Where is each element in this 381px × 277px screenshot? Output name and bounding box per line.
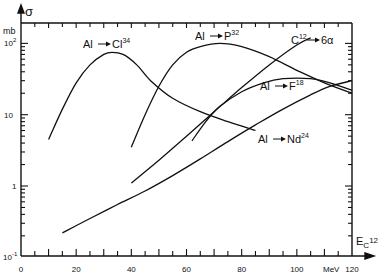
y-axis-symbol: σ <box>25 4 33 19</box>
svg-text:F18: F18 <box>289 79 304 92</box>
reaction-arrow-icon <box>283 84 288 89</box>
x-tick-label: 20 <box>72 265 81 274</box>
y-tick-label: 10-1 <box>3 251 18 262</box>
y-tick-label: 1 <box>12 182 17 191</box>
x-tick-label: 120 <box>345 265 359 274</box>
x-tick-label: 80 <box>237 265 246 274</box>
svg-text:Al: Al <box>258 133 268 145</box>
svg-text:C12: C12 <box>291 33 307 46</box>
reaction-arrow-icon <box>106 42 111 47</box>
svg-text:6α: 6α <box>321 34 334 46</box>
x-tick-label: 0 <box>19 265 24 274</box>
chart-labels: σmb10210110-1020406080100120MeVEC12AlCl3… <box>3 4 379 274</box>
reaction-arrow-icon <box>315 38 320 43</box>
y-axis-arrow-icon <box>18 5 24 13</box>
curve-al-nd24 <box>62 81 352 233</box>
cross-section-chart: σmb10210110-1020406080100120MeVEC12AlCl3… <box>0 0 381 277</box>
curve-c12-6alpha <box>131 38 310 183</box>
x-tick-label: 40 <box>127 265 136 274</box>
x-axis-symbol: EC12 <box>356 235 379 250</box>
curve-al-p32 <box>131 43 352 147</box>
reaction-arrow-icon <box>218 34 223 39</box>
svg-text:Cl34: Cl34 <box>112 37 130 50</box>
y-tick-label: 10 <box>4 111 13 120</box>
axis-ticks <box>21 23 352 256</box>
curve-al-cl34 <box>49 52 256 139</box>
x-axis-arrow-icon <box>365 253 374 259</box>
svg-text:Al: Al <box>260 80 270 92</box>
x-axis-unit: MeV <box>323 265 340 274</box>
label-al-f18: AlF18 <box>260 79 304 92</box>
svg-text:Al: Al <box>83 38 93 50</box>
label-al-cl34: AlCl34 <box>83 37 130 50</box>
svg-text:Nd24: Nd24 <box>287 132 309 145</box>
x-tick-label: 100 <box>290 265 304 274</box>
y-tick-label: 102 <box>4 37 17 48</box>
x-tick-label: 60 <box>182 265 191 274</box>
svg-text:P32: P32 <box>224 29 239 42</box>
label-al-nd24: AlNd24 <box>258 132 309 145</box>
reaction-arrow-icon <box>281 137 286 142</box>
y-axis-unit: mb <box>3 26 16 36</box>
svg-text:Al: Al <box>195 30 205 42</box>
label-al-p32: AlP32 <box>195 29 239 42</box>
label-c12-6alpha: C126α <box>291 33 334 46</box>
